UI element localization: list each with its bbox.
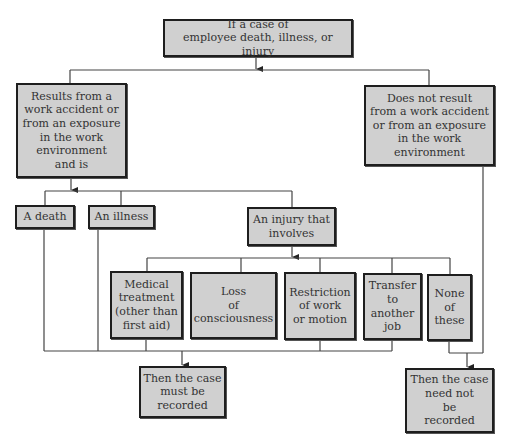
- need-not-record-label: Then the case need not be recorded: [409, 373, 491, 427]
- loss-of-consciousness-label: Loss of consciousness: [192, 285, 275, 326]
- work-related-node: Results from a work accident or from an …: [16, 83, 127, 178]
- injury-node: An injury that involves: [247, 207, 336, 246]
- work-related-label: Results from a work accident or from an …: [21, 90, 123, 172]
- loss-of-consciousness-node: Loss of consciousness: [190, 272, 277, 339]
- injury-label: An injury that involves: [251, 213, 332, 240]
- death-node: A death: [15, 205, 75, 229]
- root-node-label: If a case of employee death, illness, or…: [165, 18, 351, 59]
- illness-label: An illness: [93, 210, 151, 224]
- death-label: A death: [21, 210, 68, 224]
- restriction-label: Restriction of work or motion: [287, 286, 352, 327]
- must-record-label: Then the case must be recorded: [142, 372, 224, 413]
- illness-node: An illness: [88, 205, 155, 229]
- need-not-record-node: Then the case need not be recorded: [405, 368, 494, 433]
- not-work-related-label: Does not result from a work accident or …: [368, 92, 491, 160]
- transfer-label: Transfer to another job: [367, 279, 419, 333]
- medical-treatment-node: Medical treatment (other than first aid): [110, 271, 183, 339]
- not-work-related-node: Does not result from a work accident or …: [364, 85, 495, 166]
- none-of-these-label: None of these: [432, 287, 466, 328]
- restriction-node: Restriction of work or motion: [284, 272, 356, 340]
- must-record-node: Then the case must be recorded: [139, 366, 226, 418]
- transfer-node: Transfer to another job: [363, 273, 422, 340]
- medical-treatment-label: Medical treatment (other than first aid): [113, 278, 180, 332]
- root-node: If a case of employee death, illness, or…: [163, 19, 353, 57]
- none-of-these-node: None of these: [427, 274, 472, 341]
